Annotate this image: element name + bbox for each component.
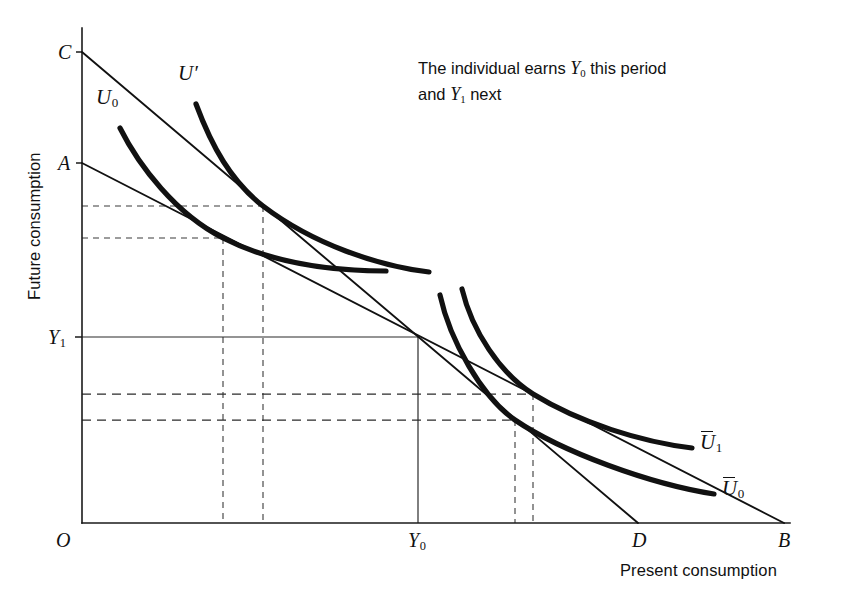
curve-label-ubar0: U0 [722,478,744,500]
point-label-b: B [778,530,790,550]
point-label-y1: Y1 [48,327,66,349]
annotation-line-2-prefix: and [418,85,450,103]
y-axis-title: Future consumption [26,152,43,300]
point-label-d: D [632,530,646,550]
annotation-line-2: and Y1 next [418,82,666,108]
point-label-y0-sub: 0 [419,539,426,553]
point-label-y1-base: Y [48,326,59,348]
annotation-line-1: The individual earns Y0 this period [418,56,666,82]
annotation-line-1-prefix: The individual earns [418,59,570,77]
annotation-line-1-suffix: this period [586,59,667,77]
figure-root: Future consumption Present consumption O… [0,0,856,602]
annotation-line-2-suffix: next [466,85,502,103]
point-label-y0: Y0 [408,530,426,552]
point-label-c: C [58,42,71,62]
curve-label-u0-sub: 0 [111,95,118,110]
point-label-y0-base: Y [408,529,419,551]
budget-lines [82,52,784,523]
indifference-curves [120,104,714,494]
curve-label-ubar1-base: U [700,432,715,453]
curve-ubar1 [462,289,692,448]
curve-label-ubar0-sub: 0 [737,486,744,501]
budget-line-cd [82,52,638,523]
annotation-line-2-symbol: Y1 [450,84,465,104]
curve-label-u-prime: U′ [178,63,198,84]
point-label-a: A [58,153,70,173]
curve-label-ubar1: U1 [700,432,722,454]
curve-label-ubar0-base: U [722,478,737,499]
annotation-line-1-symbol: Y0 [570,58,585,78]
point-label-y1-sub: 1 [59,336,66,350]
annotation-y-symbol-1: Y [570,58,580,78]
curve-label-u0: U0 [96,87,118,109]
curve-label-u0-base: U [96,85,111,109]
origin-label: O [56,530,70,550]
annotation-y-symbol-2: Y [450,84,460,104]
annotation-text: The individual earns Y0 this period and … [418,56,666,107]
x-axis-title: Present consumption [620,562,777,579]
curve-ubar0 [440,295,714,494]
curve-label-ubar1-sub: 1 [715,440,722,455]
